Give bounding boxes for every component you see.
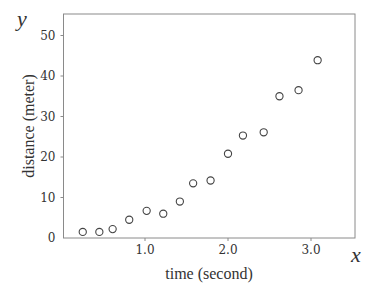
data-point-marker: [239, 132, 246, 139]
data-point-marker: [314, 57, 321, 64]
x-variable-label: x: [350, 242, 361, 267]
y-axis: 01020304050: [40, 29, 63, 246]
y-tick-label: 20: [40, 150, 55, 164]
data-point-marker: [224, 150, 231, 157]
data-point-marker: [207, 177, 214, 184]
y-variable-label: y: [15, 6, 27, 31]
x-tick-label: 2.0: [218, 243, 237, 257]
x-tick-label: 1.0: [135, 243, 154, 257]
data-point-marker: [160, 210, 167, 217]
data-point-marker: [295, 87, 302, 94]
data-point-marker: [260, 129, 267, 136]
data-point-marker: [143, 207, 150, 214]
data-point-marker: [276, 93, 283, 100]
y-tick-label: 30: [40, 110, 55, 124]
y-axis-title: distance (meter): [20, 74, 38, 178]
x-tick-label: 3.0: [301, 243, 320, 257]
y-tick-label: 40: [40, 69, 55, 83]
y-tick-label: 0: [48, 231, 56, 245]
data-point-marker: [96, 228, 103, 235]
data-point-marker: [126, 216, 133, 223]
x-axis-title: time (second): [165, 265, 253, 283]
data-point-marker: [176, 198, 183, 205]
x-axis: 1.02.03.0: [135, 238, 320, 257]
plot-area: [64, 14, 356, 238]
y-tick-label: 10: [40, 191, 55, 205]
data-point-marker: [79, 228, 86, 235]
plot-frame: [64, 14, 356, 238]
data-series: [79, 57, 321, 236]
data-point-marker: [190, 180, 197, 187]
data-point-marker: [109, 225, 116, 232]
scatter-chart: 01020304050 1.02.03.0 distance (meter) t…: [0, 0, 381, 299]
y-tick-label: 50: [40, 29, 55, 43]
